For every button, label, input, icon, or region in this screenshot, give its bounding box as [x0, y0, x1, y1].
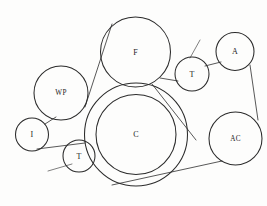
belt-ac-to-crank	[112, 161, 222, 185]
crankshaft-pulley-label: C	[133, 130, 139, 139]
belt-routing-diagram: FWPITCTAAC	[0, 0, 267, 206]
tensioner-pulley-lower-label: T	[76, 152, 81, 161]
ac-compressor-pulley-label: AC	[230, 135, 241, 143]
idler-pulley-label: I	[31, 130, 34, 139]
belt-diagram-canvas: FWPITCTAAC	[0, 0, 267, 206]
belt-alternator-to-ac	[250, 65, 258, 120]
pulleys-group	[16, 17, 263, 186]
water-pump-pulley-label: WP	[55, 89, 66, 97]
belt-tensioner-upper-to-alternator	[205, 62, 221, 66]
fan-pulley-label: F	[133, 48, 138, 57]
tensioner-arm-upper	[190, 40, 200, 58]
tensioner-pulley-upper-label: T	[189, 70, 194, 79]
belt-wp-to-f	[85, 24, 112, 107]
alternator-pulley-label: A	[232, 47, 238, 56]
belt-f-down-to-crank	[152, 84, 196, 140]
belt-lines-group	[37, 24, 258, 185]
tensioner-arms-group	[48, 40, 200, 171]
